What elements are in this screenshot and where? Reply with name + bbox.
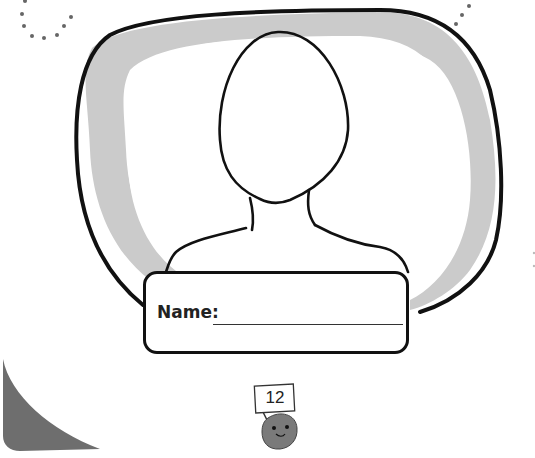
mascot-eye-left xyxy=(272,426,276,430)
decorative-dots-top-right xyxy=(454,4,471,26)
name-box: Name: xyxy=(143,271,409,354)
name-label: Name: xyxy=(157,302,219,322)
name-write-line[interactable] xyxy=(213,324,403,325)
page-number: 12 xyxy=(257,385,293,411)
mascot-body xyxy=(262,414,297,449)
corner-decoration xyxy=(3,359,100,451)
frame-inner xyxy=(124,36,461,274)
mascot-eye-right xyxy=(285,425,289,429)
decorative-dots-top-left xyxy=(20,0,73,40)
